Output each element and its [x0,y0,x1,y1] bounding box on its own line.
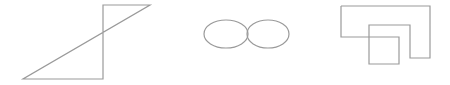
nested-rect-outline-shape [341,6,430,64]
z-polygon-shape [23,5,150,79]
right-ellipse-shape [247,20,289,48]
left-ellipse-shape [204,20,248,48]
diagram-canvas [0,0,450,85]
